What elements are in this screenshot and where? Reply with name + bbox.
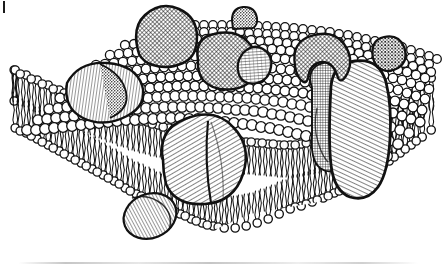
protein-right-transmembrane bbox=[330, 61, 391, 199]
protein-top-small-cap bbox=[232, 7, 257, 29]
fluid-mosaic-illustration bbox=[0, 0, 447, 270]
protein-top-crosshatch-dome bbox=[136, 6, 197, 67]
crop-tick-mark bbox=[3, 1, 5, 13]
protein-far-right-stipple bbox=[372, 36, 405, 71]
protein-centre-globular bbox=[162, 115, 246, 205]
protein-top-left-oval bbox=[66, 63, 143, 123]
membrane-diagram: Fluid mosaic model of the plasma membran… bbox=[0, 0, 447, 270]
page-scan-artifact bbox=[18, 262, 418, 264]
